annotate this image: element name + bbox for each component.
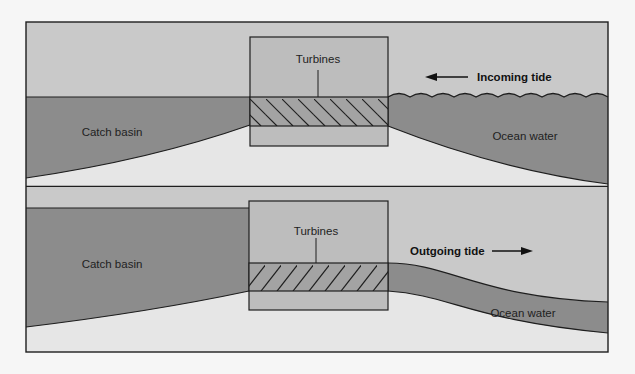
turbine-band [250, 97, 388, 126]
panel-outgoing-tide: Turbines Catch basin Ocean water Outgoin… [26, 187, 608, 352]
catch-basin-label: Catch basin [82, 258, 143, 270]
outgoing-tide-label: Outgoing tide [410, 245, 485, 257]
incoming-tide-label: Incoming tide [477, 71, 552, 83]
turbines-label: Turbines [294, 225, 339, 237]
panel-incoming-tide: Turbines Catch basin Ocean water Incomin… [26, 22, 608, 186]
catch-basin-label: Catch basin [82, 126, 143, 138]
dam-structure [249, 201, 388, 310]
tidal-power-diagram: Turbines Catch basin Ocean water Incomin… [0, 0, 635, 374]
turbine-band [249, 263, 388, 291]
ocean-water-label: Ocean water [492, 130, 557, 142]
ocean-water-label: Ocean water [490, 307, 555, 319]
turbines-label: Turbines [296, 53, 341, 65]
